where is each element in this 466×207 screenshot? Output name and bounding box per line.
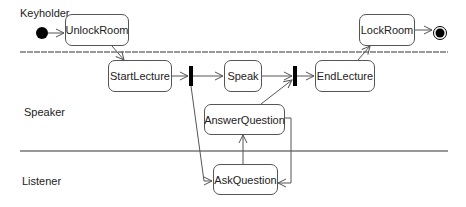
final-node [434, 27, 447, 40]
flow-endlecture-lockroom [358, 46, 370, 60]
action-lock-room[interactable]: LockRoom [359, 14, 415, 46]
action-answer-question[interactable]: AnswerQuestion [204, 104, 285, 135]
join-bar [293, 66, 297, 86]
fork-bar [189, 66, 193, 86]
flow-unlockroom-startlecture [112, 46, 124, 60]
lane-label-speaker: Speaker [24, 106, 65, 118]
lane-label-keyholder: Keyholder [20, 7, 70, 19]
flow-answerquestion-join [261, 80, 292, 104]
action-end-lecture[interactable]: EndLecture [315, 60, 375, 92]
action-start-lecture[interactable]: StartLecture [108, 60, 172, 92]
action-speak[interactable]: Speak [224, 60, 262, 92]
initial-node [36, 27, 48, 39]
action-unlock-room[interactable]: UnlockRoom [65, 14, 129, 46]
lane-label-listener: Listener [22, 175, 61, 187]
action-ask-question[interactable]: AskQuestion [213, 164, 278, 195]
